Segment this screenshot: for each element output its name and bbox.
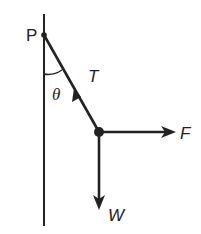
tension-label: T (88, 67, 100, 86)
weight-label: W (108, 206, 126, 225)
pendulum-force-diagram: P T θ F W (0, 0, 201, 234)
pivot-label: P (26, 26, 37, 45)
angle-arc (44, 70, 62, 75)
pivot-point (41, 32, 47, 38)
angle-label: θ (52, 85, 60, 104)
bob (94, 127, 104, 137)
force-label: F (180, 124, 192, 143)
